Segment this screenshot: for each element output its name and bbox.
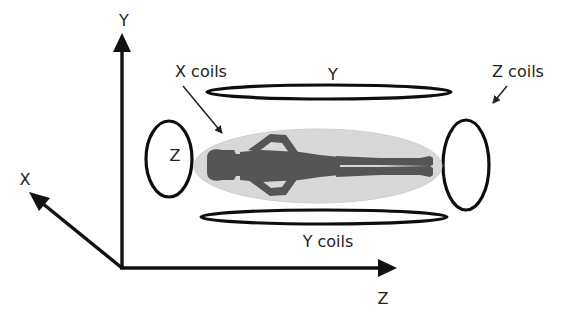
z-coil-left-label: Z [170,146,181,165]
z-coils-pointer-arrow [493,86,507,103]
patient-bore [194,129,442,203]
y-coil-top-label: Y [327,65,338,84]
y-axis-label: Y [118,11,129,30]
y-coil-bottom [201,210,447,224]
z-axis-label: Z [378,289,389,308]
y-coils-label: Y coils [302,232,354,251]
x-axis [42,203,122,268]
z-axis-arrowhead [378,259,397,277]
x-axis-label: X [20,170,31,189]
y-axis-arrowhead [113,33,131,52]
z-coils-label: Z coils [492,62,544,81]
z-coil-right [443,120,489,210]
x-coils-label: X coils [175,62,227,81]
mri-gradient-coil-diagram: Y Z X Y Y coils Z Z coils X co [0,0,566,319]
y-coil-top [207,85,451,99]
